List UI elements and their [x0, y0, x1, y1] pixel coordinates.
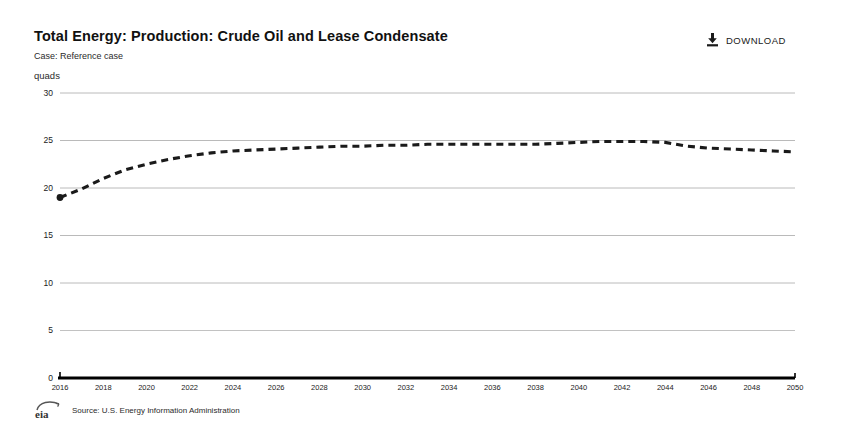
svg-text:eia: eia	[35, 408, 49, 420]
x-axis-tick-label: 2042	[606, 383, 638, 392]
chart-footer: eia Source: U.S. Energy Information Admi…	[34, 400, 240, 420]
x-axis-tick-label: 2026	[260, 383, 292, 392]
gridlines	[60, 93, 795, 331]
y-axis-tick-label: 10	[31, 278, 53, 288]
x-axis-tick-label: 2024	[217, 383, 249, 392]
y-axis-tick-label: 25	[31, 135, 53, 145]
x-axis-tick-label: 2030	[347, 383, 379, 392]
chart-plot-area: 051015202530 201620182020202220242026202…	[0, 0, 844, 435]
x-axis-tick-label: 2020	[130, 383, 162, 392]
y-axis-tick-label: 0	[31, 373, 53, 383]
x-axis-tick-label: 2022	[174, 383, 206, 392]
y-axis-tick-label: 20	[31, 183, 53, 193]
y-axis-tick-label: 15	[31, 230, 53, 240]
y-axis-tick-label: 30	[31, 88, 53, 98]
x-axis-tick-label: 2048	[736, 383, 768, 392]
x-axis-tick-label: 2016	[44, 383, 76, 392]
x-axis-tick-label: 2050	[779, 383, 811, 392]
x-axis-tick-label: 2038	[520, 383, 552, 392]
x-axis-tick-label: 2028	[303, 383, 335, 392]
eia-logo-icon: eia	[34, 400, 64, 420]
x-axis-tick-label: 2034	[433, 383, 465, 392]
source-text: Source: U.S. Energy Information Administ…	[72, 406, 240, 415]
series-start-marker	[57, 194, 64, 201]
x-axis-tick-label: 2040	[563, 383, 595, 392]
x-axis-tick-label: 2032	[390, 383, 422, 392]
x-axis-tick-label: 2018	[87, 383, 119, 392]
chart-page: Total Energy: Production: Crude Oil and …	[0, 0, 844, 435]
x-axis-tick-label: 2044	[649, 383, 681, 392]
chart-canvas	[0, 0, 844, 435]
x-axis-tick-label: 2036	[476, 383, 508, 392]
y-axis-tick-label: 5	[31, 325, 53, 335]
x-axis-tick-label: 2046	[693, 383, 725, 392]
series-line-crude-oil	[60, 141, 795, 197]
